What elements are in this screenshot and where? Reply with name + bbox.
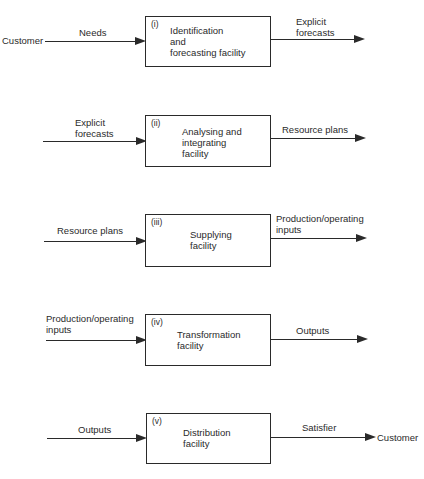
supplying-facility-box: (iii) Supplying facility (145, 214, 271, 267)
output-label: Satisfier (302, 422, 336, 433)
input-label: Explicit forecasts (75, 117, 114, 139)
input-label: Needs (79, 27, 106, 38)
arrow-head-icon (356, 234, 367, 242)
box-label: Analysing and integrating facility (182, 126, 242, 159)
stage-number: (i) (151, 19, 159, 29)
output-arrow-line (271, 238, 358, 239)
input-arrow-line (43, 141, 138, 142)
arrow-head-icon (355, 134, 366, 142)
box-label: Supplying facility (190, 229, 232, 251)
output-label: Outputs (296, 325, 329, 336)
identification-forecasting-box: (i) Identification and forecasting facil… (145, 16, 271, 67)
output-target-customer: Customer (377, 432, 418, 443)
box-label: Identification and forecasting facility (170, 25, 246, 58)
stage-number: (v) (152, 416, 162, 426)
output-label: Resource plans (282, 124, 348, 135)
analysing-integrating-box: (ii) Analysing and integrating facility (145, 115, 271, 167)
stage-number: (ii) (151, 118, 160, 128)
input-arrow-line (46, 340, 138, 341)
output-arrow-line (271, 39, 356, 40)
input-arrow-line (45, 41, 137, 42)
input-arrow-line (47, 438, 138, 439)
transformation-facility-box: (iv) Transformation facility (145, 314, 271, 366)
output-arrow-line (271, 138, 357, 139)
output-arrow-line (271, 437, 367, 438)
output-label: Explicit forecasts (296, 16, 335, 38)
input-arrow-line (44, 241, 138, 242)
box-label: Distribution facility (183, 427, 231, 449)
arrow-head-icon (357, 335, 368, 343)
input-label: Resource plans (57, 225, 123, 236)
input-source-customer: Customer (2, 35, 43, 46)
output-label: Production/operating inputs (276, 213, 364, 235)
arrow-head-icon (354, 35, 365, 43)
stage-number: (iii) (151, 217, 162, 227)
input-label: Production/operating inputs (46, 313, 134, 335)
box-label: Transformation facility (177, 329, 241, 351)
arrow-head-icon (365, 433, 376, 441)
input-label: Outputs (78, 424, 111, 435)
distribution-facility-box: (v) Distribution facility (146, 413, 271, 464)
output-arrow-line (271, 339, 359, 340)
stage-number: (iv) (151, 317, 163, 327)
